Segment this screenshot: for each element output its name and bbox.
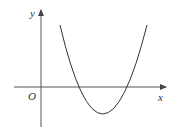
x-axis-label: x — [157, 91, 163, 103]
parabola-curve — [60, 25, 147, 114]
function-graph: y O x — [0, 0, 173, 132]
y-axis-label: y — [29, 7, 35, 19]
origin-label: O — [28, 90, 36, 102]
